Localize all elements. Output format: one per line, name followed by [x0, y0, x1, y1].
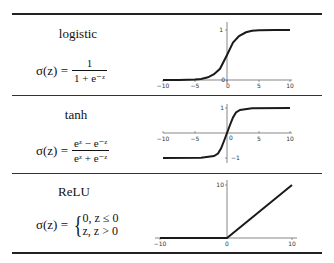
svg-text:−5: −5	[191, 135, 200, 142]
svg-text:0: 0	[221, 76, 225, 83]
svg-text:−10: −10	[157, 82, 170, 89]
svg-text:10: 10	[288, 240, 296, 247]
logistic-curve	[163, 30, 290, 80]
svg-text:1: 1	[220, 104, 224, 111]
svg-text:10: 10	[286, 135, 294, 142]
svg-text:10: 10	[216, 181, 224, 188]
activation-charts: −10 −5 0 5 10 1 0 −10 −5 0 5 10 1 −1 −1	[0, 0, 334, 263]
svg-text:0: 0	[225, 240, 229, 247]
svg-text:0: 0	[226, 82, 230, 89]
svg-text:−10: −10	[154, 240, 167, 247]
svg-text:−5: −5	[191, 82, 200, 89]
svg-text:5: 5	[257, 82, 261, 89]
chart-tanh: −10 −5 0 5 10 1 −1	[157, 104, 294, 163]
svg-text:5: 5	[257, 135, 261, 142]
svg-text:1: 1	[219, 26, 223, 33]
relu-curve	[160, 185, 292, 238]
svg-text:−1: −1	[231, 154, 240, 161]
svg-text:−10: −10	[157, 135, 170, 142]
chart-relu: −10 0 10 10	[154, 180, 297, 247]
svg-text:0: 0	[229, 134, 233, 141]
chart-logistic: −10 −5 0 5 10 1 0	[157, 22, 294, 89]
svg-text:10: 10	[286, 82, 294, 89]
